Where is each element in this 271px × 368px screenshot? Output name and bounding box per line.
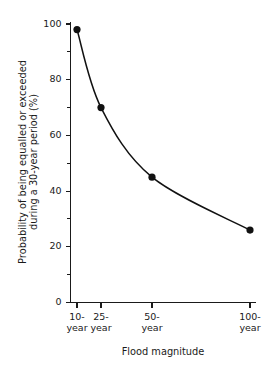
y-tick-label: 60 xyxy=(49,129,61,140)
x-tick-label: year xyxy=(141,322,162,333)
flood-probability-chart: 020406080100 10-year25-year50-year100-ye… xyxy=(0,0,271,368)
data-curve xyxy=(77,30,250,231)
x-axis-title: Flood magnitude xyxy=(122,346,205,357)
x-tick-label: 100- xyxy=(239,311,261,322)
y-axis-title-line1: Probability of being equalled or exceede… xyxy=(17,60,28,264)
y-tick-label: 80 xyxy=(49,73,61,84)
y-ticks-group: 020406080100 xyxy=(43,18,70,308)
x-tick-label: year xyxy=(66,322,87,333)
y-axis-title-line2: during a 30-year period (%) xyxy=(28,94,39,230)
axes-group xyxy=(71,22,257,303)
y-axis-title-group: Probability of being equalled or exceede… xyxy=(17,60,39,264)
y-tick-label: 20 xyxy=(49,240,61,251)
data-point-marker xyxy=(246,226,253,233)
chart-canvas: 020406080100 10-year25-year50-year100-ye… xyxy=(0,0,271,368)
data-point-marker xyxy=(73,26,80,33)
x-tick-label: 10- xyxy=(69,311,85,322)
x-tick-label: 50- xyxy=(144,311,160,322)
data-point-marker xyxy=(148,174,155,181)
data-point-marker xyxy=(97,104,104,111)
y-tick-label: 40 xyxy=(49,185,61,196)
x-tick-label: 25- xyxy=(93,311,109,322)
x-tick-label: year xyxy=(239,322,260,333)
x-ticks-group: 10-year25-year50-year100-year xyxy=(66,303,260,333)
y-tick-label: 100 xyxy=(43,18,61,29)
x-tick-label: year xyxy=(90,322,111,333)
y-tick-label: 0 xyxy=(55,296,61,307)
data-points-group xyxy=(73,26,253,234)
